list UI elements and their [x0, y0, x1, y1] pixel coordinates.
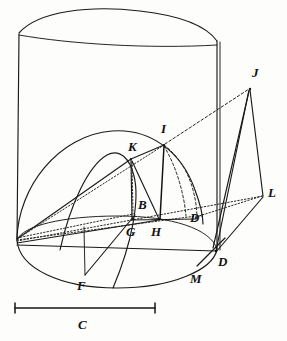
segment-F-vertical	[84, 227, 85, 275]
cylinder-base-ellipse-front	[17, 240, 217, 288]
label-I: I	[161, 122, 166, 135]
segment-J-to-Dprime-edge	[213, 91, 249, 248]
vertex-dot-D	[215, 250, 217, 252]
parabolic-curve-through-K	[60, 153, 136, 288]
segment-G-to-H-base	[131, 219, 196, 220]
label-J: J	[252, 66, 259, 79]
cylinder-top-rim-arc	[19, 9, 217, 41]
label-F: F	[77, 279, 86, 292]
label-L: L	[268, 186, 276, 199]
label-M: M	[190, 272, 202, 285]
figure-canvas	[0, 0, 287, 341]
label-B: B	[138, 198, 147, 211]
segment-A-to-D	[17, 245, 216, 251]
segment-J-to-L	[250, 90, 263, 196]
vertex-dot-I	[163, 144, 165, 146]
vertex-dot-J	[249, 88, 251, 90]
vertex-dot-G	[132, 218, 134, 220]
segment-I-to-J-dashed	[165, 89, 249, 144]
vertex-dot-K	[130, 158, 132, 160]
cylinder-left-wall	[17, 34, 19, 239]
label-D: D	[218, 255, 227, 268]
label-H: H	[151, 225, 161, 238]
label-K: K	[128, 140, 137, 153]
segment-A-to-G-dotted	[17, 214, 133, 238]
hemisphere-dome-arc	[17, 131, 203, 239]
vertex-dot-H	[158, 218, 160, 220]
vertical-I-to-H	[160, 146, 164, 219]
label-G: G	[126, 225, 135, 238]
label-C-scale: C	[78, 318, 87, 331]
cylinder-base-ellipse-back	[17, 216, 217, 249]
geometry-figure: J I K L B D' G H D F M C	[0, 0, 287, 341]
cylinder-top-front-edge	[19, 35, 217, 46]
label-D-prime: D'	[190, 211, 203, 224]
